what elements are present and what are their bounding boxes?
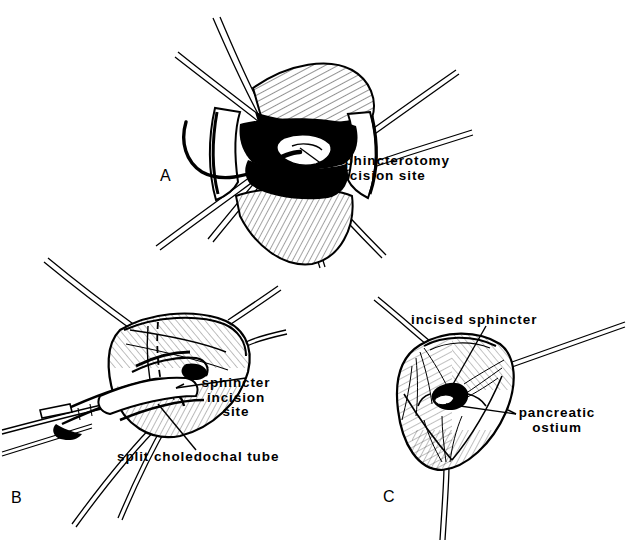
label-pancreatic-ostium: pancreatic ostium (511, 406, 603, 435)
label-sphincter-incision-line-3: site (188, 405, 284, 420)
label-sphincterotomy-line-1: sphincterotomy (336, 154, 450, 169)
label-sphincterotomy-incision-site: sphincterotomy incision site (336, 154, 450, 183)
panel-letter-a: A (160, 168, 171, 184)
label-pancreatic-ostium-line-2: ostium (511, 421, 603, 436)
label-incised-sphincter: incised sphincter (411, 313, 537, 328)
surgical-illustration (0, 0, 627, 544)
label-sphincter-incision-line-2: incision (188, 391, 284, 406)
label-pancreatic-ostium-line-1: pancreatic (511, 406, 603, 421)
label-sphincterotomy-line-2: incision site (336, 169, 450, 184)
label-split-choledochal-tube: split choledochal tube (117, 450, 279, 465)
label-sphincter-incision-line-1: sphincter (188, 376, 284, 391)
panel-letter-c: C (383, 489, 395, 505)
label-sphincter-incision-site: sphincter incision site (188, 376, 284, 420)
panel-letter-b: B (11, 490, 22, 506)
